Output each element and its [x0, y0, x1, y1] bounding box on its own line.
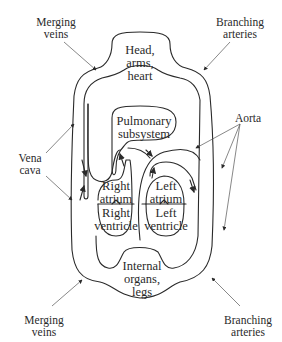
label-right-atrium: Right atrium — [100, 180, 133, 206]
label-head-arms-heart: Head, arms, heart — [125, 44, 155, 83]
callout-merging-veins-top: Merging veins — [36, 16, 75, 40]
pointer-branching-arteries-bottom — [212, 278, 240, 306]
callout-branching-arteries-bottom: Branching arteries — [224, 314, 272, 338]
callout-branching-arteries-top: Branching arteries — [216, 16, 264, 40]
upper-inner-cavity — [88, 104, 120, 182]
label-left-atrium: Left atrium — [150, 180, 183, 206]
flow-arrow-vena-lower — [80, 186, 84, 200]
label-pulmonary-subsystem: Pulmonary subsystem — [117, 115, 172, 141]
callout-vena-cava: Vena cava — [19, 152, 42, 176]
pointer-merging-veins-top — [64, 42, 96, 70]
label-left-ventricle: Left ventricle — [144, 207, 188, 233]
label-right-ventricle: Right ventricle — [94, 207, 138, 233]
pulmonary-return — [128, 148, 150, 158]
pointer-aorta-descending — [222, 124, 240, 168]
pointer-merging-veins-bottom — [52, 280, 82, 306]
pointer-vena-cava-upper — [46, 124, 74, 153]
label-internal-organs-legs: Internal organs, legs — [123, 260, 162, 299]
pointer-aorta-arch — [196, 124, 240, 148]
callout-merging-veins-bottom: Merging veins — [24, 314, 63, 338]
pointer-vena-cava-lower — [46, 176, 72, 200]
callout-aorta: Aorta — [235, 112, 261, 124]
pointer-aorta-lower — [224, 124, 240, 230]
flow-arrow-pulm-out — [120, 154, 124, 166]
pointer-branching-arteries-top — [204, 42, 230, 70]
flow-arrow-left — [152, 168, 154, 178]
circulatory-diagram: Head, arms, heart Pulmonary subsystem Ri… — [0, 0, 282, 342]
